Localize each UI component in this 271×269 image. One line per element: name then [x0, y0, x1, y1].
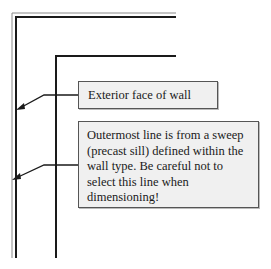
arrowhead-icon — [16, 103, 25, 110]
callout-exterior-face: Exterior face of wall — [78, 81, 218, 109]
callout-text: Outermost line is from a sweep (precast … — [87, 128, 244, 204]
leader-arrow-sweep — [12, 165, 78, 180]
leader-arrow-exterior-face — [16, 95, 78, 110]
callout-text: Exterior face of wall — [88, 88, 191, 102]
callout-outermost-line: Outermost line is from a sweep (precast … — [78, 121, 259, 208]
